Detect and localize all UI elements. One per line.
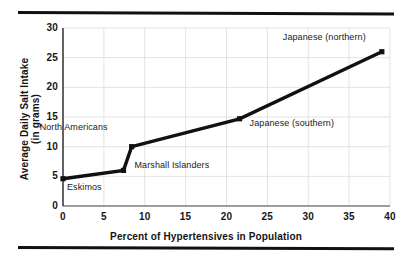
y-axis-title-line1: Average Daily Salt Intake	[19, 34, 30, 204]
data-point-marker	[237, 116, 242, 121]
x-tick-label: 40	[378, 211, 402, 222]
data-series-line	[63, 52, 382, 179]
data-point-label: Japanese (northern)	[283, 32, 366, 42]
x-tick-label: 0	[51, 211, 75, 222]
x-tick-label: 10	[133, 211, 157, 222]
data-point-label: Japanese (southern)	[250, 118, 334, 128]
x-axis-title: Percent of Hypertensives in Population	[0, 231, 412, 242]
y-axis-title: Average Daily Salt Intake (in grams)	[19, 34, 41, 204]
x-tick-label: 20	[215, 211, 239, 222]
data-point-marker	[60, 176, 65, 181]
x-tick-label: 35	[337, 211, 361, 222]
data-point-marker	[121, 168, 126, 173]
data-series-markers	[60, 49, 384, 181]
data-point-label: North Americans	[40, 122, 108, 132]
x-tick-label: 25	[255, 211, 279, 222]
x-tick-label: 5	[92, 211, 116, 222]
data-point-label: Eskimos	[67, 182, 102, 192]
gridlines	[63, 28, 390, 206]
x-tick-label: 30	[296, 211, 320, 222]
y-tick-label: 30	[36, 22, 58, 33]
figure-container: 051015202530 0510152025303540 EskimosMar…	[0, 0, 412, 258]
data-point-marker	[379, 49, 384, 54]
y-axis-title-line2: (in grams)	[30, 34, 41, 204]
data-point-label: Marshall Islanders	[134, 160, 209, 170]
data-point-marker	[129, 144, 134, 149]
x-tick-label: 15	[174, 211, 198, 222]
